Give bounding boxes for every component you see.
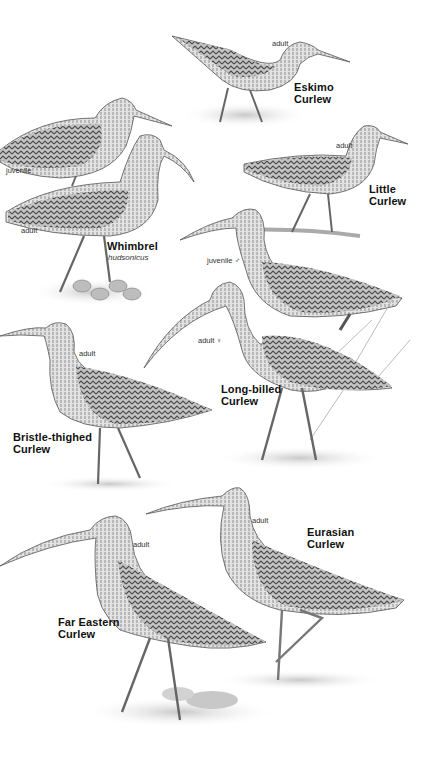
whimbrel-name: Whimbrel [107,240,158,252]
bristle-adult-label: adult [79,349,95,358]
curlew-plate: adult Eskimo Curlew juvenile adult Whimb… [0,0,424,758]
eurasian-adult-label: adult [252,516,268,525]
bird-illustrations [0,0,424,758]
eskimo-curlew-name: Eskimo Curlew [294,81,334,105]
long-billed-juvenile-label: juvenile ♂ [207,256,240,265]
whimbrel-subspecies: hudsonicus [108,253,148,262]
eurasian-curlew-illustration [146,488,404,690]
little-curlew-illustration [240,126,408,236]
little-curlew-name: Little Curlew [369,183,406,207]
little-adult-label: adult [336,141,352,150]
far-eastern-curlew-name: Far Eastern Curlew [58,616,120,640]
long-billed-adult-label: adult ♀ [198,336,222,345]
whimbrel-juvenile-label: juvenile [6,166,31,175]
whimbrel-adult-label: adult [21,226,37,235]
long-billed-curlew-name: Long-billed Curlew [221,383,281,407]
long-billed-curlew-juvenile-illustration [180,209,402,330]
bristle-thighed-curlew-illustration [0,323,212,492]
bristle-thighed-curlew-name: Bristle-thighed Curlew [13,431,92,455]
eurasian-curlew-name: Eurasian Curlew [307,526,354,550]
far-eastern-adult-label: adult [133,540,149,549]
eskimo-adult-label: adult [272,39,288,48]
